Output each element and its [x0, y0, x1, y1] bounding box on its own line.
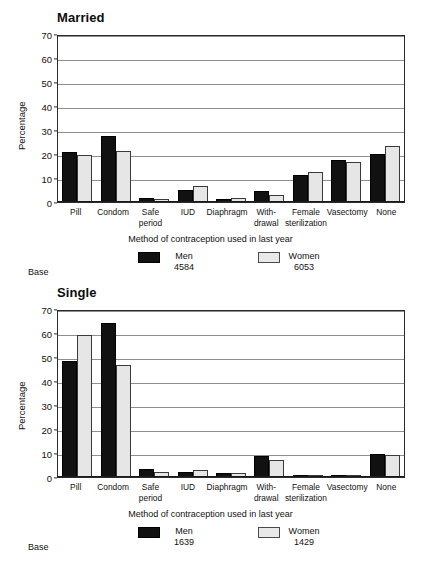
y-tick-mark-20: [54, 429, 58, 430]
legend-swatch-men-icon: [138, 527, 160, 538]
bar-group: [212, 311, 250, 477]
x-axis-tick-label: Femalesterilization: [285, 482, 327, 503]
plot-area-married: 010203040506070: [57, 35, 405, 203]
x-axis-tick-label: None: [368, 207, 405, 228]
legend-text-women-single: Women 1429: [287, 526, 321, 548]
legend-base-women: 6053: [287, 262, 321, 273]
x-axis-tick-label: Pill: [57, 482, 94, 503]
bar-group: [58, 311, 96, 477]
bar-men: [62, 361, 77, 477]
bar-men: [331, 160, 346, 202]
bar-group: [250, 311, 288, 477]
x-axis-tick-label: Pill: [57, 207, 94, 228]
bar-groups-married: [58, 36, 404, 202]
legend-married: Base Men 4584 Women 6053: [0, 250, 421, 284]
x-axis-tick-label: Condom: [94, 482, 131, 503]
chart-panel-married: Married Percentage 010203040506070 PillC…: [0, 0, 421, 285]
legend-item-women-single: Women 1429: [258, 526, 321, 548]
bar-men: [293, 175, 308, 202]
legend-single: Base Men 1639 Women 1429: [0, 525, 421, 559]
bar-women: [116, 151, 131, 202]
y-tick-mark-60: [54, 58, 58, 59]
bar-group: [289, 311, 327, 477]
y-tick-mark-10: [54, 453, 58, 454]
legend-text-men-married: Men 4584: [167, 251, 201, 273]
bar-group: [173, 311, 211, 477]
bar-men: [254, 456, 269, 477]
x-axis-tick-label: None: [368, 482, 405, 503]
x-axis-tick-label: With-drawal: [248, 207, 285, 228]
x-axis-tick-label: Safeperiod: [132, 482, 169, 503]
legend-item-women-married: Women 6053: [258, 251, 321, 273]
bar-women: [308, 172, 323, 202]
y-tick-mark-30: [54, 405, 58, 406]
y-tick-mark-50: [54, 357, 58, 358]
chart-title-married: Married: [57, 10, 105, 25]
bar-women: [77, 155, 92, 202]
legend-base-women: 1429: [287, 537, 321, 548]
y-tick-mark-30: [54, 130, 58, 131]
x-axis-tick-label: Condom: [94, 207, 131, 228]
bar-groups-single: [58, 311, 404, 477]
x-axis-tick-label: Vasectomy: [327, 482, 368, 503]
bar-group: [135, 36, 173, 202]
bar-group: [366, 36, 404, 202]
bar-group: [327, 311, 365, 477]
y-tick-mark-40: [54, 106, 58, 107]
bar-group: [173, 36, 211, 202]
y-tick-mark-70: [54, 34, 58, 35]
bar-women: [269, 460, 284, 477]
legend-name-men: Men: [175, 526, 193, 536]
y-tick-mark-70: [54, 309, 58, 310]
chart-title-single: Single: [57, 285, 97, 300]
bar-men: [62, 152, 77, 202]
y-tick-mark-60: [54, 333, 58, 334]
legend-base-men: 4584: [167, 262, 201, 273]
x-axis-line-single: [58, 476, 404, 477]
legend-swatch-women-icon: [258, 252, 280, 263]
bar-group: [96, 311, 134, 477]
base-label-married: Base: [28, 267, 49, 277]
bar-women: [385, 146, 400, 202]
x-axis-line-married: [58, 201, 404, 202]
bar-men: [370, 154, 385, 202]
x-axis-tick-label: With-drawal: [248, 482, 285, 503]
legend-swatch-women-icon: [258, 527, 280, 538]
y-tick-mark-50: [54, 82, 58, 83]
bar-group: [212, 36, 250, 202]
bar-group: [96, 36, 134, 202]
x-axis-tick-label: Diaphragm: [207, 482, 248, 503]
plot-frame-single: [57, 310, 405, 478]
legend-name-women: Women: [289, 526, 320, 536]
legend-base-men: 1639: [167, 537, 201, 548]
y-tick-mark-0: [54, 477, 58, 478]
bar-men: [370, 454, 385, 477]
legend-item-men-married: Men 4584: [138, 251, 201, 273]
legend-text-women-married: Women 6053: [287, 251, 321, 273]
legend-swatch-men-icon: [138, 252, 160, 263]
legend-name-men: Men: [175, 251, 193, 261]
legend-name-women: Women: [289, 251, 320, 261]
bar-women: [385, 455, 400, 477]
x-axis-tick-label: Diaphragm: [207, 207, 248, 228]
y-tick-mark-40: [54, 381, 58, 382]
bar-women: [77, 335, 92, 477]
bar-group: [58, 36, 96, 202]
x-axis-tick-label: IUD: [169, 207, 206, 228]
bar-men: [101, 323, 116, 477]
x-axis-tick-label: IUD: [169, 482, 206, 503]
bar-women: [346, 162, 361, 202]
x-axis-labels-single: PillCondomSafeperiodIUDDiaphragmWith-dra…: [57, 482, 405, 503]
bar-group: [289, 36, 327, 202]
bar-group: [327, 36, 365, 202]
legend-item-men-single: Men 1639: [138, 526, 201, 548]
x-axis-title-single: Method of contraception used in last yea…: [0, 509, 421, 519]
base-label-single: Base: [28, 542, 49, 552]
bar-men: [101, 136, 116, 202]
x-axis-title-married: Method of contraception used in last yea…: [0, 234, 421, 244]
bar-women: [193, 186, 208, 202]
x-axis-tick-label: Safeperiod: [132, 207, 169, 228]
x-axis-tick-label: Vasectomy: [327, 207, 368, 228]
plot-frame-married: [57, 35, 405, 203]
bar-group: [135, 311, 173, 477]
